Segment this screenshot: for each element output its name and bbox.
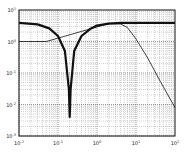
x-tick-label: 10-2 <box>14 140 24 146</box>
bode-magnitude-chart: 10110010-110-210-3 10-210-1100101102 <box>0 0 187 152</box>
plot-grid <box>19 10 175 136</box>
x-tick-label: 101 <box>132 140 141 146</box>
x-tick-label: 10-1 <box>53 140 63 146</box>
y-tick-label: 10-2 <box>6 102 16 108</box>
y-tick-label: 101 <box>7 7 16 13</box>
y-tick-label: 100 <box>7 39 16 45</box>
y-tick-label: 10-3 <box>6 133 16 139</box>
x-tick-label: 100 <box>93 140 102 146</box>
y-axis-ticks: 10110010-110-210-3 <box>6 7 16 139</box>
x-tick-label: 102 <box>171 140 180 146</box>
y-tick-label: 10-1 <box>6 70 16 76</box>
x-axis-ticks: 10-210-1100101102 <box>14 140 179 146</box>
